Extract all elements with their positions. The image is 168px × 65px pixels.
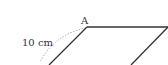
left-edge: [49, 27, 87, 65]
right-edge: [131, 27, 168, 65]
parallelogram-diagram: A 10 cm: [0, 0, 168, 65]
length-label: 10 cm: [22, 37, 54, 48]
vertex-label-a: A: [80, 15, 89, 26]
